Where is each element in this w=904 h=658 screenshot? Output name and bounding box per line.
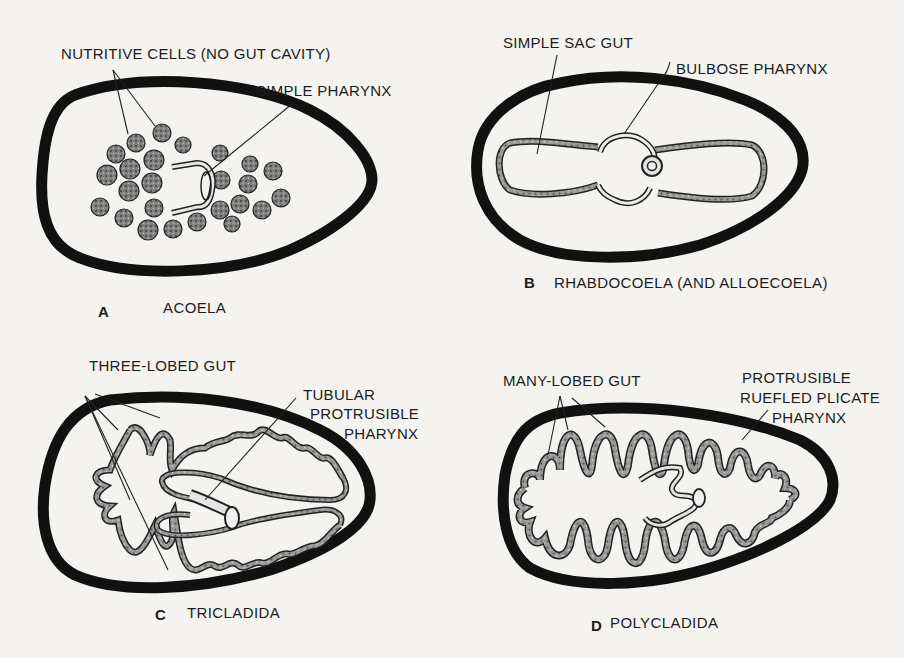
label-simple-pharynx: SIMPLE PHARYNX [256, 82, 392, 99]
diagram-drawing [0, 0, 904, 658]
caption-acoela: ACOELA [163, 299, 226, 316]
label-simple-sac-gut: SIMPLE SAC GUT [503, 34, 633, 51]
panel-a-acoela-drawing [42, 70, 372, 271]
body-outline [42, 82, 372, 271]
label-protrusible: PROTRUSIBLE [742, 369, 851, 386]
label-many-lobed-gut: MANY-LOBED GUT [503, 372, 641, 389]
nutritive-cells [91, 124, 290, 240]
body-outline [43, 397, 370, 588]
label-pharynx: PHARYNX [344, 425, 418, 442]
label-nutritive-cells: NUTRITIVE CELLS (NO GUT CAVITY) [61, 45, 331, 62]
label-ruffled-plicate: RUEFLED PLICATE [740, 389, 880, 406]
panel-b-rhabdocoela-drawing [477, 55, 804, 257]
caption-tricladida: TRICLADIDA [187, 604, 280, 621]
label-pharynx: PHARYNX [772, 409, 846, 426]
panel-letter-c: C [155, 606, 166, 623]
label-protrusible: PROTRUSIBLE [310, 405, 419, 422]
caption-polycladida: POLYCLADIDA [610, 614, 718, 631]
panel-letter-b: B [524, 274, 535, 291]
simple-pharynx [172, 163, 213, 213]
panel-c-tricladida-drawing [43, 394, 370, 588]
label-tubular: TUBULAR [303, 386, 375, 403]
body-outline [477, 77, 804, 257]
label-bulbose-pharynx: BULBOSE PHARYNX [676, 60, 828, 77]
caption-rhabdocoela: RHABDOCOELA (AND ALLOECOELA) [554, 274, 828, 291]
flatworm-gut-types-figure: NUTRITIVE CELLS (NO GUT CAVITY) SIMPLE P… [0, 0, 904, 658]
panel-letter-a: A [98, 303, 109, 320]
label-three-lobed-gut: THREE-LOBED GUT [89, 357, 236, 374]
panel-letter-d: D [591, 617, 602, 634]
